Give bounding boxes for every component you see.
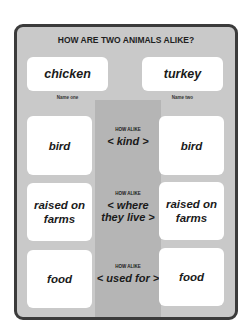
row-2-how-alike: HOW ALIKE < where they live > xyxy=(95,191,161,223)
name-two-card[interactable]: turkey xyxy=(142,57,223,91)
row-2-left-card[interactable]: raised on farms xyxy=(27,183,92,241)
row-1-how-alike: HOW ALIKE < kind > xyxy=(95,127,161,147)
how-alike-label: HOW ALIKE xyxy=(95,191,161,196)
name-one-label: Name one xyxy=(27,95,108,100)
row-3-right-card[interactable]: food xyxy=(159,248,224,306)
row-1-right-card[interactable]: bird xyxy=(159,116,224,175)
how-alike-category: < used for > xyxy=(95,272,161,284)
how-alike-category: < kind > xyxy=(95,135,161,147)
how-alike-label: HOW ALIKE xyxy=(95,264,161,269)
organizer-title: HOW ARE TWO ANIMALS ALIKE? xyxy=(17,35,235,45)
row-3-how-alike: HOW ALIKE < used for > xyxy=(95,264,161,284)
row-1-left-card[interactable]: bird xyxy=(27,116,92,175)
row-3-left-card[interactable]: food xyxy=(27,250,92,308)
name-two-label: Name two xyxy=(142,95,223,100)
how-alike-category: < where they live > xyxy=(95,199,161,223)
how-alike-label: HOW ALIKE xyxy=(95,127,161,132)
row-2-right-card[interactable]: raised on farms xyxy=(159,182,224,240)
name-one-card[interactable]: chicken xyxy=(27,57,108,91)
graphic-organizer-panel: HOW ARE TWO ANIMALS ALIKE? chicken Name … xyxy=(14,24,238,320)
